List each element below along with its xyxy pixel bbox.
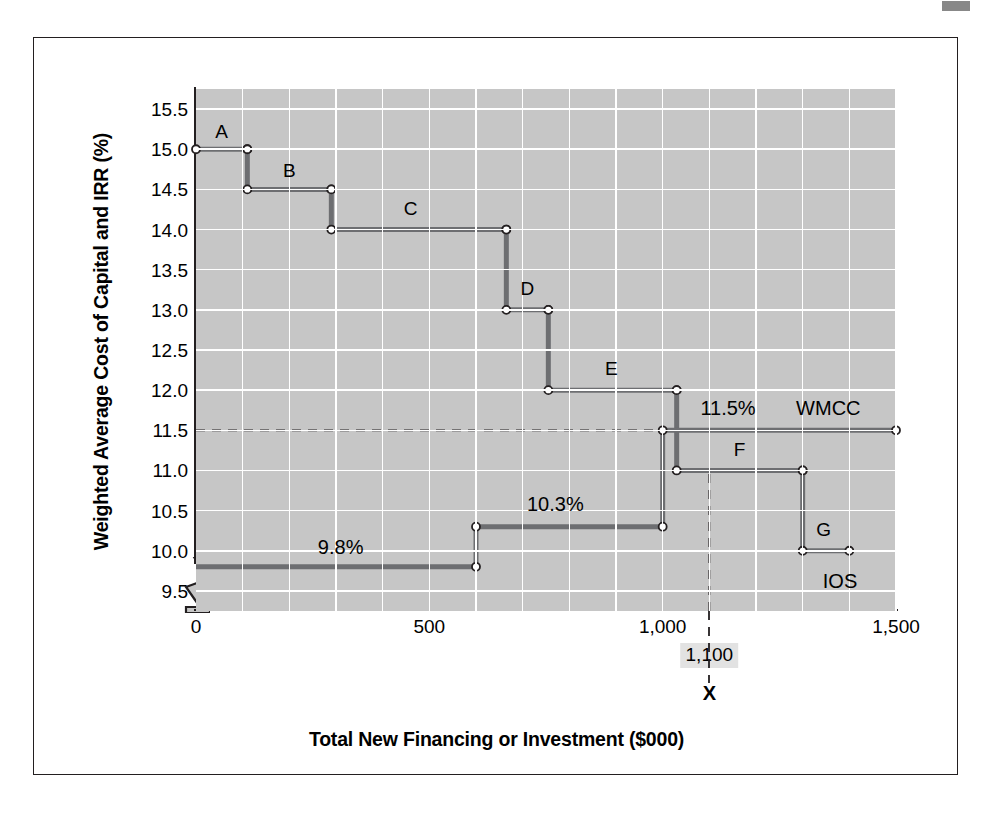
gridline-vertical (522, 89, 524, 611)
x-tick-label: 1,000 (639, 616, 687, 638)
gridline-horizontal (196, 189, 896, 191)
y-tick-label: 15.5 (132, 100, 188, 119)
plot-annotation-a: A (215, 121, 228, 143)
gridline-horizontal (196, 470, 896, 472)
gridline-vertical (335, 89, 337, 611)
plot-annotation-c: C (404, 198, 418, 220)
gridline-horizontal (196, 269, 896, 271)
gridline-vertical (475, 89, 477, 611)
y-tick-label: 13.0 (132, 301, 188, 320)
y-tick-label: 15.0 (132, 140, 188, 159)
gridline-vertical (615, 89, 617, 611)
y-tick-label: 11.5 (132, 421, 188, 440)
gridline-vertical (382, 89, 384, 611)
y-tick-label-column: 9.510.010.511.011.512.012.513.013.514.01… (126, 38, 188, 638)
plot-annotation-g: G (816, 519, 831, 541)
plot-annotation-d: D (520, 278, 534, 300)
plot-area (196, 89, 896, 611)
x-tick-label: 500 (413, 616, 445, 638)
y-tick-label: 14.0 (132, 221, 188, 240)
gridline-horizontal (196, 349, 896, 351)
gridline-horizontal (196, 550, 896, 552)
plot-annotation-103: 10.3% (527, 493, 584, 516)
gridline-horizontal (196, 590, 896, 592)
x-tick-label: 1,500 (872, 616, 920, 638)
y-tick-label: 9.5 (132, 582, 188, 601)
figure-frame: Weighted Average Cost of Capital and IRR… (33, 37, 958, 775)
y-axis-title: Weighted Average Cost of Capital and IRR… (90, 112, 113, 572)
y-tick-label: 12.0 (132, 381, 188, 400)
plot-annotation-f: F (734, 439, 746, 461)
gridline-vertical (242, 89, 244, 611)
y-tick-label: 10.5 (132, 502, 188, 521)
gridline-vertical (709, 89, 711, 611)
y-tick-label: 10.0 (132, 542, 188, 561)
gridline-vertical (849, 89, 851, 611)
x-marker-letter: X (703, 682, 716, 705)
y-tick-label: 13.5 (132, 261, 188, 280)
x-marker-dashed-tail (703, 611, 715, 683)
x-tick-label: 0 (191, 616, 202, 638)
plot-annotation-e: E (605, 358, 618, 380)
gridline-vertical (662, 89, 664, 611)
plot-annotation-ios: IOS (823, 570, 857, 593)
gridline-vertical (429, 89, 431, 611)
plot-annotation-wmcc: WMCC (796, 397, 860, 420)
gridline-horizontal (196, 389, 896, 391)
gridline-horizontal (196, 430, 896, 432)
page-corner-mark (942, 1, 970, 11)
plot-annotation-98: 9.8% (318, 536, 364, 559)
y-tick-label: 12.5 (132, 341, 188, 360)
gridline-horizontal (196, 309, 896, 311)
gridline-horizontal (196, 229, 896, 231)
gridline-vertical (755, 89, 757, 611)
plot-annotation-115: 11.5% (700, 397, 755, 420)
gridline-vertical (569, 89, 571, 611)
x-axis-title: Total New Financing or Investment ($000) (34, 728, 959, 751)
gridline-horizontal (196, 148, 896, 150)
y-tick-label: 11.0 (132, 461, 188, 480)
gridline-horizontal (196, 108, 896, 110)
gridline-vertical (895, 89, 897, 611)
y-tick-label: 14.5 (132, 180, 188, 199)
plot-annotation-b: B (283, 160, 296, 182)
gridline-vertical (802, 89, 804, 611)
